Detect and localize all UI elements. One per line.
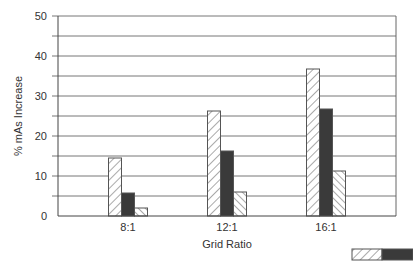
bar <box>234 192 247 216</box>
y-tick-label: 40 <box>35 50 47 62</box>
bar <box>333 171 346 216</box>
x-tick-label: 8:1 <box>120 221 135 233</box>
bar <box>109 158 122 216</box>
bar <box>320 109 333 216</box>
y-axis-ticks: 01020304050 <box>35 10 47 222</box>
bar <box>135 208 148 216</box>
x-axis-label: Grid Ratio <box>202 238 252 250</box>
bar-chart: 01020304050 8:112:116:1 Grid Ratio % mAs… <box>0 0 413 267</box>
x-axis-ticks: 8:112:116:1 <box>120 221 336 233</box>
bar <box>307 69 320 216</box>
y-tick-label: 30 <box>35 90 47 102</box>
legend <box>352 249 413 260</box>
bar <box>221 151 234 216</box>
y-tick-label: 50 <box>35 10 47 22</box>
y-tick-label: 10 <box>35 170 47 182</box>
legend-swatch-hatch <box>352 249 382 260</box>
bars <box>109 69 346 216</box>
legend-swatch-solid <box>382 249 413 260</box>
y-axis-label: % mAs Increase <box>12 76 24 156</box>
x-tick-label: 16:1 <box>315 221 336 233</box>
y-tick-label: 0 <box>41 210 47 222</box>
bar <box>122 193 135 216</box>
y-tick-label: 20 <box>35 130 47 142</box>
bar <box>208 111 221 216</box>
x-tick-label: 12:1 <box>216 221 237 233</box>
